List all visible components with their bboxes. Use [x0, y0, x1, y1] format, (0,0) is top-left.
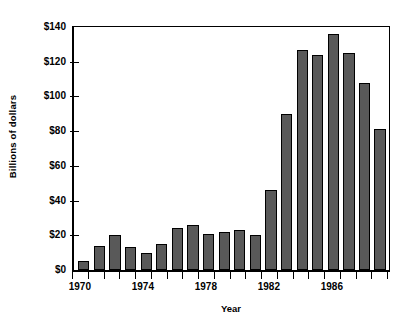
x-axis-tick-label: 1982	[258, 281, 280, 292]
bar	[109, 235, 120, 270]
bar	[250, 235, 261, 270]
x-axis-tick-mark	[104, 272, 105, 279]
bar	[281, 114, 292, 270]
y-axis-tick-mark	[70, 201, 79, 202]
x-axis-tick-mark	[340, 272, 341, 279]
bar-chart: Billions of dollars $0$20$40$60$80$100$1…	[0, 0, 420, 330]
y-axis-tick-label: $100	[44, 90, 66, 101]
bar-slot	[201, 27, 217, 270]
y-axis-tick-mark	[70, 62, 79, 63]
bar-slot	[76, 27, 92, 270]
bar	[141, 253, 152, 270]
y-axis-tick-mark	[70, 235, 79, 236]
y-axis-tick-label: $80	[49, 125, 66, 136]
bar-slot	[341, 27, 357, 270]
bar-slot	[357, 27, 373, 270]
bar-slot	[107, 27, 123, 270]
bar	[328, 34, 339, 270]
x-axis-title: Year	[72, 303, 390, 314]
x-axis-tick-mark	[356, 272, 357, 279]
bar-slot	[92, 27, 108, 270]
x-axis-tick-mark	[293, 272, 294, 279]
x-axis-tick-mark	[135, 272, 136, 279]
bar	[172, 228, 183, 270]
bar	[94, 246, 105, 270]
x-axis-tick-mark	[277, 272, 278, 279]
bar	[359, 83, 370, 270]
bar-slot	[294, 27, 310, 270]
x-axis-tick-mark	[261, 272, 262, 279]
x-axis-tick-labels: 19701974197819821986	[72, 281, 390, 297]
x-axis-tick-label: 1978	[195, 281, 217, 292]
x-axis-tick-label: 1970	[69, 281, 91, 292]
x-axis-tick-mark	[88, 272, 89, 279]
x-axis-tick-marks	[72, 272, 390, 279]
x-axis-tick-label: 1986	[321, 281, 343, 292]
y-axis-title-text: Billions of dollars	[8, 94, 19, 178]
y-axis-tick-mark	[70, 166, 79, 167]
y-axis-tick-mark	[70, 96, 79, 97]
x-axis-tick-mark	[72, 272, 73, 279]
x-axis-tick-label: 1974	[132, 281, 154, 292]
x-axis-tick-mark	[230, 272, 231, 279]
x-axis-tick-mark	[324, 272, 325, 279]
bar-slot	[170, 27, 186, 270]
x-axis-tick-mark	[371, 272, 372, 279]
bar-slot	[185, 27, 201, 270]
y-axis-title: Billions of dollars	[0, 0, 26, 272]
bar	[219, 232, 230, 270]
y-axis-tick-label: $140	[44, 21, 66, 32]
bar-slot	[326, 27, 342, 270]
bar-slot	[123, 27, 139, 270]
y-axis-tick-label: $120	[44, 55, 66, 66]
bar-slot	[310, 27, 326, 270]
x-axis-tick-mark	[214, 272, 215, 279]
bar	[374, 129, 385, 270]
bar	[297, 50, 308, 270]
bar	[312, 55, 323, 270]
bar	[187, 225, 198, 270]
bar-slot	[138, 27, 154, 270]
x-axis-tick-mark	[245, 272, 246, 279]
bar-slot	[279, 27, 295, 270]
bar-slot	[372, 27, 388, 270]
bar	[125, 247, 136, 270]
bar-series	[74, 27, 389, 270]
bar	[234, 230, 245, 270]
y-axis-tick-label: $20	[49, 229, 66, 240]
bar	[156, 244, 167, 270]
x-axis-tick-mark	[167, 272, 168, 279]
y-axis-tick-labels: $0$20$40$60$80$100$120$140	[26, 0, 70, 290]
bar-slot	[248, 27, 264, 270]
y-axis-tick-label: $40	[49, 194, 66, 205]
y-axis-tick-label: $0	[55, 264, 66, 275]
bar-slot	[154, 27, 170, 270]
x-axis-tick-mark	[308, 272, 309, 279]
x-axis-tick-mark	[198, 272, 199, 279]
x-axis-tick-mark	[387, 272, 388, 279]
y-axis-tick-mark	[70, 131, 79, 132]
bar-slot	[232, 27, 248, 270]
bar-slot	[263, 27, 279, 270]
y-axis-tick-label: $60	[49, 159, 66, 170]
bar	[343, 53, 354, 270]
x-axis-tick-mark	[151, 272, 152, 279]
x-axis-tick-mark	[119, 272, 120, 279]
plot-area	[72, 26, 390, 272]
bar-slot	[216, 27, 232, 270]
bar	[265, 190, 276, 270]
bar	[203, 234, 214, 270]
bar	[78, 261, 89, 270]
x-axis-tick-mark	[182, 272, 183, 279]
